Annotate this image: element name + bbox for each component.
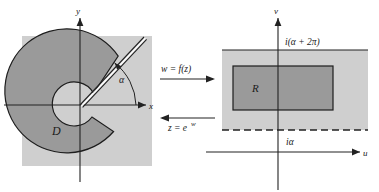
v-axis-arrowhead	[275, 18, 282, 26]
region-R-label: R	[251, 82, 259, 94]
right-panel-group: i(α + 2π) iα R u v	[206, 6, 368, 190]
top-boundary-label: i(α + 2π)	[285, 37, 320, 48]
left-panel-group: D x y α	[4, 6, 153, 182]
figure-container: D x y α w = f(z)	[0, 0, 379, 192]
angle-alpha-label: α	[119, 74, 125, 85]
bottom-boundary-label: iα	[286, 137, 295, 147]
forward-map-label: w = f(z)	[161, 64, 191, 75]
u-axis-label: u	[363, 148, 368, 158]
forward-map-arrowhead	[206, 75, 215, 82]
conformal-map-diagram: D x y α w = f(z)	[0, 0, 379, 192]
region-R-shape	[233, 66, 333, 110]
center-map-group: w = f(z) z = e w	[160, 64, 215, 133]
u-axis-arrowhead	[352, 149, 360, 156]
y-axis-arrowhead	[77, 18, 84, 26]
region-D-label: D	[51, 124, 61, 138]
x-axis-label: x	[148, 101, 153, 111]
y-axis-label: y	[75, 6, 80, 16]
v-axis-label: v	[274, 6, 278, 16]
inverse-map-label: z = e	[167, 123, 187, 133]
inverse-map-arrowhead	[160, 114, 169, 121]
inverse-map-exponent: w	[191, 120, 196, 128]
